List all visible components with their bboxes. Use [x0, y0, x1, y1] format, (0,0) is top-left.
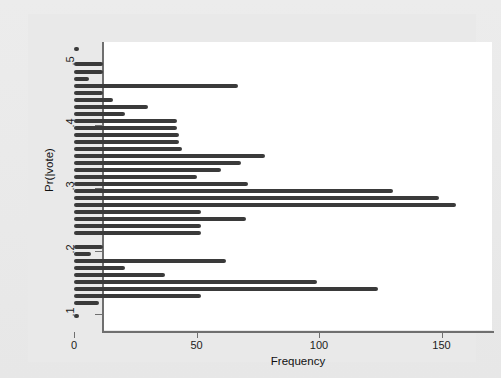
bar-row [74, 133, 179, 137]
figure-screenshot: 050100150 .1.2.3.4.5 Frequency Pr(|vote) [0, 0, 501, 378]
bar-row [74, 119, 177, 123]
y-axis-title: Pr(|vote) [43, 125, 55, 215]
bar-row [74, 294, 201, 298]
bar-row [74, 314, 79, 318]
bars-layer [28, 14, 501, 378]
bar-row [74, 182, 248, 186]
bar-row [74, 210, 201, 214]
bar-row [74, 175, 197, 179]
bar-row [74, 189, 393, 193]
bar-row [74, 252, 91, 256]
bar-row [74, 168, 221, 172]
bar-row [74, 280, 317, 284]
bar-row [74, 47, 79, 51]
bar-row [74, 287, 378, 291]
bar-row [74, 62, 103, 66]
bar-row [74, 112, 125, 116]
bar-row [74, 245, 103, 249]
bar-row [74, 224, 201, 228]
bar-row [74, 98, 113, 102]
bar-row [74, 126, 177, 130]
bar-row [74, 196, 439, 200]
bar-row [74, 147, 182, 151]
bar-row [74, 140, 179, 144]
bar-row [74, 266, 125, 270]
bar-row [74, 161, 241, 165]
bar-row [74, 273, 165, 277]
bar-row [74, 84, 238, 88]
bar-row [74, 154, 265, 158]
plot-frame: 050100150 .1.2.3.4.5 Frequency Pr(|vote) [28, 14, 476, 362]
bar-row [74, 231, 201, 235]
bar-row [74, 203, 456, 207]
x-axis-title: Frequency [102, 355, 494, 367]
bar-row [74, 105, 148, 109]
bar-row [74, 301, 99, 305]
bar-row [74, 70, 103, 74]
bar-row [74, 217, 246, 221]
bar-row [74, 259, 226, 263]
bar-row [74, 91, 103, 95]
bar-row [74, 77, 89, 81]
